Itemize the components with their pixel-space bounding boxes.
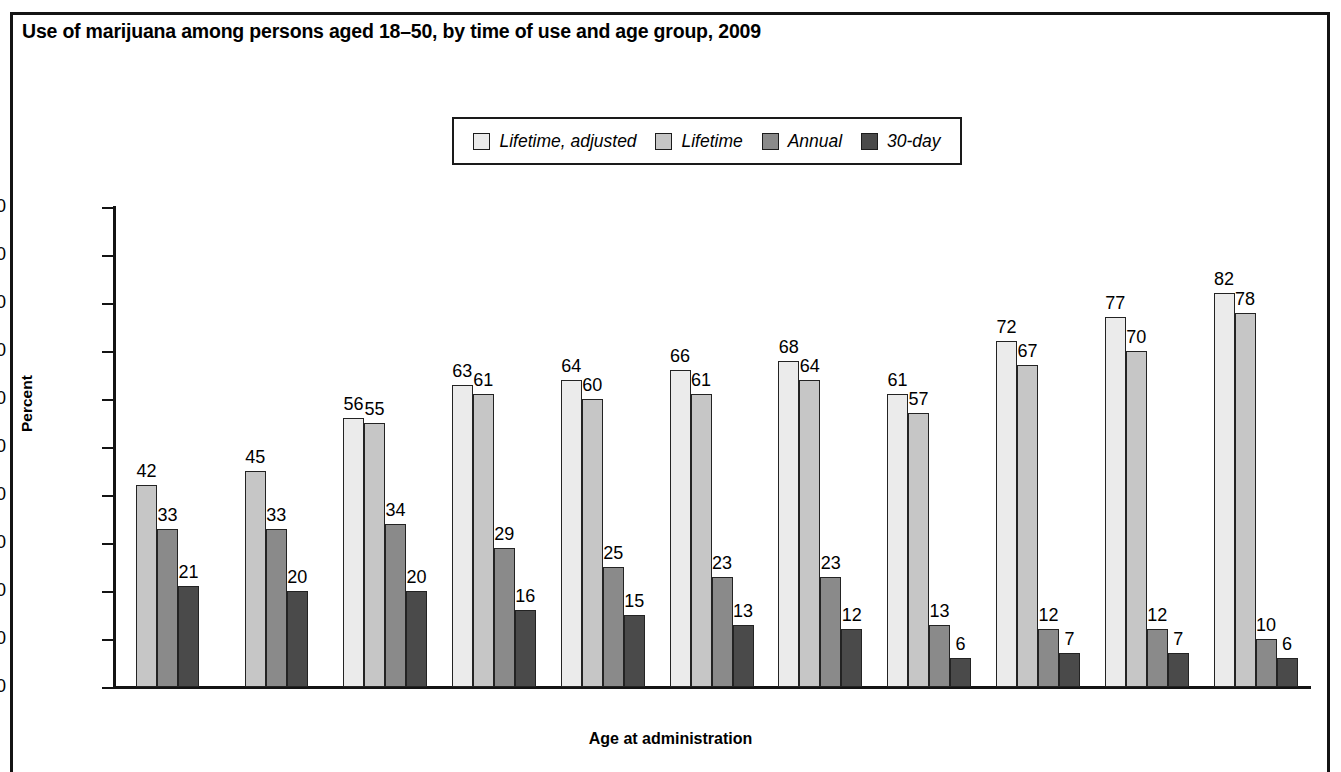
bar-value-label: 20 [407, 567, 427, 588]
bar-value-label: 34 [386, 500, 406, 521]
bar-rect [406, 591, 427, 687]
bar-value-label: 13 [733, 601, 753, 622]
bar-rect [1168, 653, 1189, 687]
bar-lifetime: 70 [1126, 207, 1147, 687]
y-tick-label: 10 [0, 628, 6, 649]
bar-value-label: 23 [821, 553, 841, 574]
bar-annual: 12 [1147, 207, 1168, 687]
bar-annual: 33 [157, 207, 178, 687]
bar-value-label: 45 [245, 447, 265, 468]
bar-lifetime-adjusted: 63 [452, 207, 473, 687]
y-tick-mark [102, 495, 113, 497]
bar-lifetime-adjusted: 72 [996, 207, 1017, 687]
bar-value-label: 82 [1214, 269, 1234, 290]
bar-value-label: 6 [956, 634, 966, 655]
bar-value-label: 61 [473, 370, 493, 391]
y-tick-label: 30 [0, 532, 6, 553]
bar-lifetime: 61 [473, 207, 494, 687]
bar-group: 8278106 [1214, 207, 1298, 687]
bar-rect [799, 380, 820, 687]
bar-rect [1038, 629, 1059, 687]
bar-30-day: 20 [406, 207, 427, 687]
bar-value-label: 64 [800, 356, 820, 377]
bar-lifetime-adjusted: 82 [1214, 207, 1235, 687]
bar-rect [245, 471, 266, 687]
bar-value-label: 56 [344, 394, 364, 415]
bar-rect [1256, 639, 1277, 687]
bar-rect [950, 658, 971, 687]
bar-lifetime: 42 [136, 207, 157, 687]
bar-rect [385, 524, 406, 687]
bar-rect [670, 370, 691, 687]
bar-rect [820, 577, 841, 687]
y-tick-mark [102, 207, 113, 209]
legend-item-lifetime: Lifetime [655, 131, 742, 152]
bar-group: 453320 [245, 207, 308, 687]
bar-value-label: 15 [624, 591, 644, 612]
legend-label-30-day: 30-day [887, 131, 941, 152]
bar-lifetime: 57 [908, 207, 929, 687]
legend-item-annual: Annual [762, 131, 843, 152]
bar-value-label: 61 [691, 370, 711, 391]
bar-30-day: 21 [178, 207, 199, 687]
legend-swatch-30-day [861, 133, 878, 150]
bar-30-day: 6 [1277, 207, 1298, 687]
bar-rect [778, 361, 799, 687]
bar-value-label: 68 [779, 337, 799, 358]
bar-annual: 23 [712, 207, 733, 687]
y-axis-title: Percent [18, 375, 36, 432]
bar-rect [582, 399, 603, 687]
bar-annual: 13 [929, 207, 950, 687]
bar-annual: 23 [820, 207, 841, 687]
bar-value-label: 70 [1126, 327, 1146, 348]
bar-rect [452, 385, 473, 687]
bar-group: 56553420 [343, 207, 427, 687]
bar-value-label: 33 [266, 505, 286, 526]
bar-value-label: 66 [670, 346, 690, 367]
bar-rect [733, 625, 754, 687]
bar-value-label: 29 [494, 524, 514, 545]
bar-rect [157, 529, 178, 687]
bar-lifetime-adjusted: 68 [778, 207, 799, 687]
chart-legend: Lifetime, adjustedLifetimeAnnual30-day [452, 117, 962, 165]
bar-value-label: 25 [603, 543, 623, 564]
bar-value-label: 55 [365, 399, 385, 420]
y-tick-mark [102, 591, 113, 593]
bar-rect [603, 567, 624, 687]
bar-rect [1059, 653, 1080, 687]
bar-rect [996, 341, 1017, 687]
legend-swatch-annual [762, 133, 779, 150]
legend-item-lifetime-adjusted: Lifetime, adjusted [473, 131, 636, 152]
bar-annual: 25 [603, 207, 624, 687]
bar-30-day: 7 [1059, 207, 1080, 687]
bar-rect [515, 610, 536, 687]
bar-rect [1126, 351, 1147, 687]
bar-lifetime: 55 [364, 207, 385, 687]
bar-lifetime: 67 [1017, 207, 1038, 687]
y-tick-mark [102, 639, 113, 641]
bar-rect [343, 418, 364, 687]
x-axis-title: Age at administration [0, 730, 1341, 748]
y-tick-label: 70 [0, 340, 6, 361]
y-tick-label: 50 [0, 436, 6, 457]
bar-value-label: 12 [1147, 605, 1167, 626]
bar-rect [1017, 365, 1038, 687]
bar-lifetime-adjusted: 66 [670, 207, 691, 687]
y-tick-label: 60 [0, 388, 6, 409]
bar-30-day: 12 [841, 207, 862, 687]
bar-group: 66612313 [670, 207, 754, 687]
bar-value-label: 12 [1038, 605, 1058, 626]
bar-30-day: 7 [1168, 207, 1189, 687]
y-tick-mark [102, 303, 113, 305]
legend-label-lifetime-adjusted: Lifetime, adjusted [499, 131, 636, 152]
bar-value-label: 21 [178, 562, 198, 583]
bar-annual: 34 [385, 207, 406, 687]
bar-30-day: 20 [287, 207, 308, 687]
bar-rect [1147, 629, 1168, 687]
bar-lifetime-adjusted: 61 [887, 207, 908, 687]
bar-rect [561, 380, 582, 687]
bar-rect [841, 629, 862, 687]
bar-value-label: 63 [452, 361, 472, 382]
bar-value-label: 12 [842, 605, 862, 626]
bar-value-label: 42 [136, 461, 156, 482]
